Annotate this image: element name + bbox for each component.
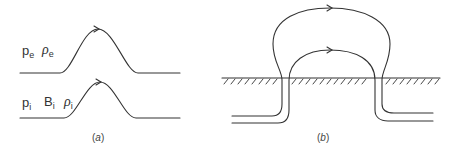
label-internal-field: Bi: [44, 95, 55, 111]
panel-b-outer-field-line: [232, 8, 433, 116]
label-internal-density: ρi: [64, 95, 73, 111]
flux-tube-figure: pe ρe pi Bi ρi (a) (b): [0, 0, 456, 151]
label-external-density: ρe: [42, 43, 54, 59]
label-external-pressure: pe: [22, 44, 34, 60]
figure-drawing: [0, 0, 456, 151]
panel-b-inner-field-line: [232, 50, 433, 123]
label-internal-pressure: pi: [22, 96, 31, 112]
panel-b-caption: (b): [317, 132, 329, 143]
panel-b-surface-hatching: [224, 79, 439, 84]
panel-a-caption: (a): [92, 132, 104, 143]
